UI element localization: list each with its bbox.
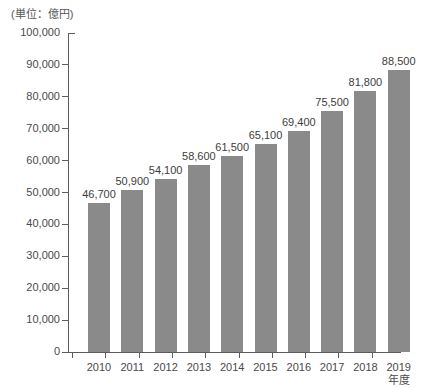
bar[interactable] [121,190,143,352]
bar-value-label: 50,900 [102,176,162,187]
x-axis-tick [172,353,173,358]
x-axis-tick [272,353,273,358]
y-axis-tick [62,256,68,257]
bar[interactable] [155,179,177,352]
bar-value-label: 46,700 [69,189,129,200]
bar[interactable] [354,91,376,352]
y-axis-label: 50,000 [2,187,60,198]
x-axis-tick [205,353,206,358]
y-axis-tick [62,160,68,161]
y-axis-tick [62,352,68,353]
x-axis-tick [338,353,339,358]
bar[interactable] [321,111,343,352]
x-axis-tick [372,353,373,358]
bar[interactable] [88,203,110,352]
y-axis-tick [62,192,68,193]
y-axis-tick [62,128,68,129]
y-axis-tick [62,288,68,289]
x-axis-unit-label: 年度 [375,374,421,386]
unit-caption: (単位：億円) [11,7,73,21]
y-axis-label: 40,000 [2,218,60,229]
bar-value-label: 75,500 [302,97,362,108]
y-axis-label: 0 [2,346,60,357]
y-axis-tick [62,96,68,97]
bar[interactable] [255,144,277,352]
y-axis-tick [62,320,68,321]
y-axis-label: 90,000 [2,59,60,70]
bar[interactable] [221,156,243,352]
bar-value-label: 65,100 [236,130,296,141]
bar-value-label: 61,500 [202,142,262,153]
y-axis-label: 30,000 [2,250,60,261]
x-axis-label: 2019 [375,361,421,373]
y-axis-top-cap [68,33,75,34]
y-axis-label: 20,000 [2,282,60,293]
bar-value-label: 54,100 [136,165,196,176]
bar[interactable] [288,131,310,352]
y-axis-label: 60,000 [2,155,60,166]
x-axis-tick [72,353,73,358]
bar[interactable] [388,70,410,352]
bar[interactable] [188,165,210,352]
y-axis-tick [62,64,68,65]
y-axis-label: 80,000 [2,91,60,102]
x-axis-tick [239,353,240,358]
bar-chart: (単位：億円) 010,00020,00030,00040,00050,0006… [0,0,421,388]
y-axis-label: 10,000 [2,314,60,325]
y-axis-label: 100,000 [2,27,60,38]
y-axis-label: 70,000 [2,123,60,134]
x-axis-tick [305,353,306,358]
y-axis-tick [62,224,68,225]
x-axis-line [68,352,401,353]
x-axis-tick [105,353,106,358]
bar-value-label: 88,500 [369,56,421,67]
bar-value-label: 81,800 [335,77,395,88]
bar-value-label: 69,400 [269,117,329,128]
x-axis-tick [139,353,140,358]
